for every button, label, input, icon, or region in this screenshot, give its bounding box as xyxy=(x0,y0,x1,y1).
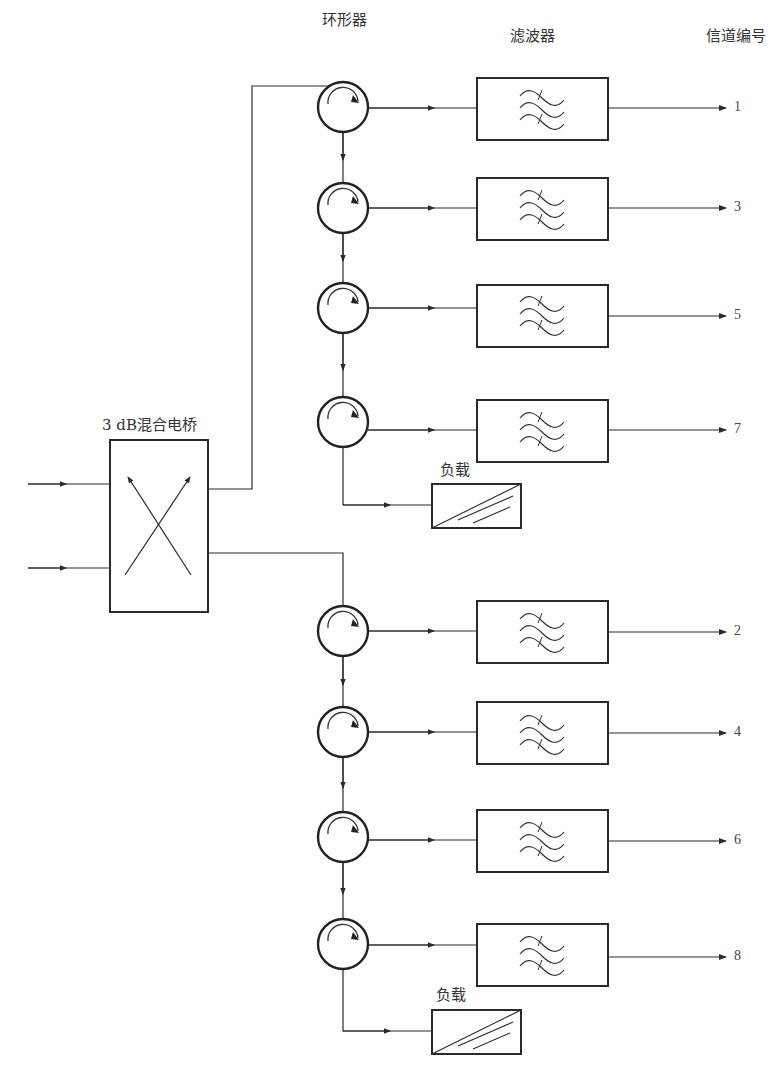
channel-8: 8 xyxy=(734,948,741,964)
hybrid-label: 3 dB混合电桥 xyxy=(102,413,197,434)
row-ch5 xyxy=(368,285,726,347)
channel-6: 6 xyxy=(734,832,741,848)
circulator-icon xyxy=(318,82,368,969)
channel-4: 4 xyxy=(734,724,741,740)
filter-label: 滤波器 xyxy=(510,24,555,45)
channel-3: 3 xyxy=(734,199,741,215)
channel-7: 7 xyxy=(734,421,741,437)
row-ch4 xyxy=(368,702,726,764)
load-label-upper: 负载 xyxy=(440,458,470,479)
row-ch7 xyxy=(368,400,726,462)
hybrid-coupler-icon xyxy=(110,440,208,612)
row-ch6 xyxy=(368,810,726,872)
channel-5: 5 xyxy=(734,307,741,323)
multiplexer-diagram xyxy=(0,0,779,1086)
channel-2: 2 xyxy=(734,623,741,639)
channel-number-label: 信道编号 xyxy=(706,24,766,45)
bandpass-filter-icon xyxy=(520,90,564,975)
row-ch1 xyxy=(368,78,726,140)
load-label-lower: 负载 xyxy=(436,983,466,1004)
channel-1: 1 xyxy=(734,99,741,115)
row-ch2 xyxy=(368,601,726,663)
row-ch8 xyxy=(368,924,726,986)
circulator-label: 环形器 xyxy=(322,8,367,29)
row-ch3 xyxy=(368,178,726,240)
